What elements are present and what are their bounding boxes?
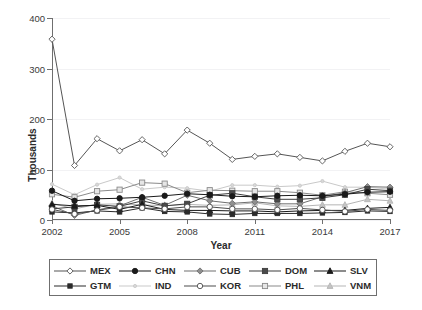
data-point [321,180,324,183]
legend-item-vnm[interactable]: VNM [314,280,379,292]
legend-label: PHL [285,280,304,291]
legend-marker-ind-icon [119,280,151,292]
data-point [162,206,167,211]
data-point [141,188,144,191]
legend-label: SLV [350,265,368,276]
legend-label: MEX [90,265,111,276]
data-point [298,211,302,215]
gridline [52,220,390,221]
data-point [342,148,348,154]
x-tick-label: 2017 [379,226,400,237]
legend-marker-slv-icon [314,265,346,277]
x-axis-title: Year [52,240,390,251]
legend-label: KOR [220,280,241,291]
data-point [365,207,370,212]
legend-label: IND [155,280,171,291]
legend-item-kor[interactable]: KOR [184,280,249,292]
y-tick-label: 100 [29,164,45,175]
data-point [117,196,122,201]
data-point [117,187,122,192]
data-point [387,208,392,213]
data-point [387,144,393,150]
legend-item-dom[interactable]: DOM [249,265,314,277]
legend-label: CHN [155,265,176,276]
data-point [231,184,234,187]
x-tick [390,219,391,224]
data-point [252,189,257,194]
legend-marker-kor-icon [184,280,216,292]
legend-row: GTMINDKORPHLVNM [54,278,372,293]
data-point [139,195,144,200]
data-point [276,185,279,188]
x-tick-label: 2005 [109,226,130,237]
y-tick-label: 0 [40,215,45,226]
data-point [387,189,392,194]
data-point [230,206,235,211]
legend-row: MEXCHNCUBDOMSLV [54,263,372,278]
data-point [274,151,280,157]
legend-marker-mex-icon [54,265,86,277]
data-point [95,183,98,186]
y-tick-label: 200 [29,114,45,125]
legend-item-ind[interactable]: IND [119,280,184,292]
data-point [72,198,77,203]
data-point [139,205,144,210]
data-point [72,211,77,216]
legend-label: DOM [285,265,307,276]
data-point [365,190,370,195]
legend-item-chn[interactable]: CHN [119,265,184,277]
data-point [207,192,212,197]
data-point [275,207,280,212]
data-point [275,193,280,198]
legend-label: GTM [90,280,111,291]
legend: MEXCHNCUBDOMSLVGTMINDKORPHLVNM [49,259,377,296]
data-point [253,184,256,187]
data-point [342,209,347,214]
data-point [320,193,325,198]
data-point [297,206,302,211]
legend-item-cub[interactable]: CUB [184,265,249,277]
series-layer [52,18,390,220]
legend-marker-cub-icon [184,265,216,277]
data-point [140,180,145,185]
legend-item-phl[interactable]: PHL [249,280,314,292]
legend-marker-vnm-icon [314,280,346,292]
data-point [117,210,121,214]
legend-label: VNM [350,280,371,291]
legend-item-mex[interactable]: MEX [54,265,119,277]
data-point [252,194,257,199]
x-tick-label: 2002 [41,226,62,237]
data-point [319,158,325,164]
data-point [320,207,325,212]
data-point [117,148,123,154]
data-point [94,189,99,194]
data-point [117,204,122,209]
legend-marker-gtm-icon [54,280,86,292]
data-point [297,193,302,198]
data-point [252,153,258,159]
y-tick-label: 300 [29,63,45,74]
data-point [162,193,167,198]
legend-marker-phl-icon [249,280,281,292]
plot-area: 0100200300400 200220052008201120142017 [52,18,390,220]
data-point [252,206,257,211]
data-point [207,198,213,204]
series-cub [49,184,393,219]
x-tick-label: 2011 [245,226,265,237]
data-point [94,208,99,213]
legend-marker-dom-icon [249,265,281,277]
series-mex [49,36,393,168]
data-point [49,188,54,193]
data-point [50,183,53,186]
legend-item-slv[interactable]: SLV [314,265,379,277]
legend-item-gtm[interactable]: GTM [54,280,119,292]
data-point [186,187,189,190]
data-point [365,196,371,202]
legend-label: CUB [220,265,241,276]
y-tick-label: 400 [29,13,45,24]
data-point [208,212,212,216]
data-point [207,204,212,209]
data-point [139,137,145,143]
data-point [185,204,190,209]
chart-figure: Thousands Year 0100200300400 20022005200… [0,0,422,310]
